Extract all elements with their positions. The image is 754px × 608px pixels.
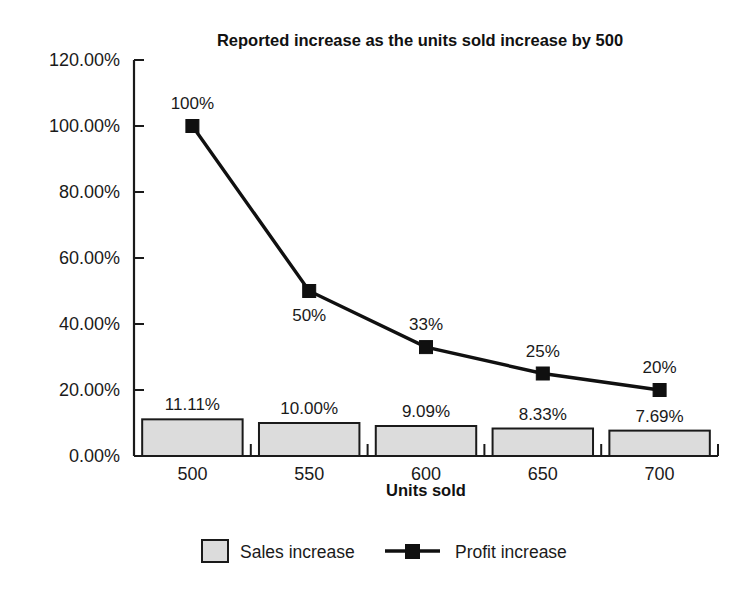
combo-chart: Reported increase as the units sold incr… — [0, 0, 754, 608]
y-tick-label: 100.00% — [49, 116, 120, 136]
bar — [142, 419, 242, 456]
bar-data-label: 9.09% — [402, 402, 450, 421]
x-tick-label: 500 — [177, 464, 207, 484]
bar-data-label: 10.00% — [280, 399, 338, 418]
legend-swatch-sales-increase — [202, 540, 228, 562]
y-tick-label: 60.00% — [59, 248, 120, 268]
chart-container: Reported increase as the units sold incr… — [0, 0, 754, 608]
y-tick-label: 80.00% — [59, 182, 120, 202]
legend-label-profit-increase: Profit increase — [455, 542, 567, 562]
x-tick-label: 700 — [645, 464, 675, 484]
bar — [609, 431, 709, 456]
x-tick-label: 650 — [528, 464, 558, 484]
data-point-marker — [186, 120, 199, 133]
line-data-label: 33% — [409, 315, 443, 334]
y-tick-label: 20.00% — [59, 380, 120, 400]
bar-series-sales-increase — [142, 419, 710, 456]
x-axis-title: Units sold — [386, 481, 466, 499]
bar-data-label: 7.69% — [635, 407, 683, 426]
line-data-label: 20% — [643, 358, 677, 377]
bar-data-label: 11.11% — [165, 395, 220, 414]
data-point-marker — [420, 341, 433, 354]
y-tick-label: 40.00% — [59, 314, 120, 334]
line-series-profit-increase — [186, 120, 666, 397]
y-axis-ticks: 120.00%100.00%80.00%60.00%40.00%20.00%0.… — [49, 50, 144, 466]
data-point-marker — [653, 384, 666, 397]
legend-marker-profit-increase — [405, 544, 420, 559]
chart-title: Reported increase as the units sold incr… — [217, 31, 623, 49]
data-point-marker — [303, 285, 316, 298]
line-data-label: 50% — [292, 306, 326, 325]
line-data-label: 100% — [171, 94, 214, 113]
bar — [493, 429, 593, 456]
y-tick-label: 0.00% — [69, 446, 120, 466]
y-tick-label: 120.00% — [49, 50, 120, 70]
line-data-labels: 100%50%33%25%20% — [171, 94, 677, 377]
data-point-marker — [536, 367, 549, 380]
bar — [259, 423, 359, 456]
bar-data-label: 8.33% — [519, 405, 567, 424]
bar — [376, 426, 476, 456]
x-tick-label: 550 — [294, 464, 324, 484]
chart-legend: Sales increase Profit increase — [202, 540, 567, 562]
line-data-label: 25% — [526, 342, 560, 361]
legend-label-sales-increase: Sales increase — [240, 542, 355, 562]
